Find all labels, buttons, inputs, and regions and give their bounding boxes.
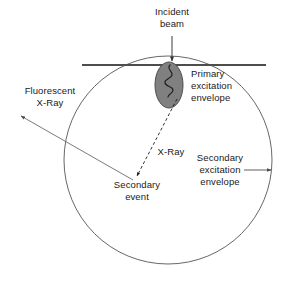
- label-primary-envelope-line3: envelope: [191, 92, 271, 104]
- label-secondary-event-line2: event: [97, 191, 177, 203]
- label-fluorescent-xray: Fluorescent X-Ray: [4, 85, 96, 109]
- label-fluorescent-xray-line2: X-Ray: [4, 97, 96, 109]
- label-incident-beam-line1: Incident: [134, 6, 210, 18]
- label-secondary-envelope-line3: envelope: [182, 176, 258, 188]
- diagram-canvas: [0, 0, 288, 284]
- label-secondary-event-line1: Secondary: [97, 179, 177, 191]
- label-secondary-envelope-line2: excitation: [182, 164, 258, 176]
- label-primary-envelope-line2: excitation: [191, 80, 271, 92]
- label-secondary-envelope-line1: Secondary: [182, 152, 258, 164]
- xray-dashed-arrow: [137, 99, 177, 176]
- xrf-excitation-diagram: Incident beam Primary excitation envelop…: [0, 0, 288, 284]
- label-fluorescent-xray-line1: Fluorescent: [4, 85, 96, 97]
- label-secondary-event: Secondary event: [97, 179, 177, 203]
- label-incident-beam: Incident beam: [134, 6, 210, 30]
- label-primary-envelope-line1: Primary: [191, 68, 271, 80]
- label-secondary-excitation-envelope: Secondary excitation envelope: [182, 152, 258, 188]
- fluorescent-xray-arrow: [21, 116, 133, 180]
- label-incident-beam-line2: beam: [134, 18, 210, 30]
- label-primary-excitation-envelope: Primary excitation envelope: [191, 68, 271, 104]
